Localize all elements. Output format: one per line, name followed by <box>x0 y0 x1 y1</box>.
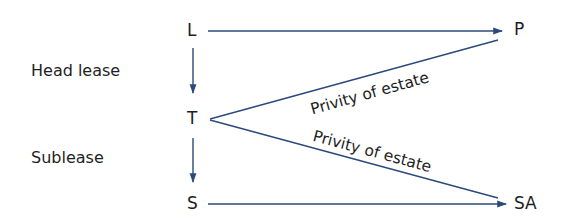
node-purchaser: P <box>514 21 524 38</box>
node-subtenant-assignee: SA <box>514 195 537 212</box>
sublease-label: Sublease <box>31 150 104 166</box>
node-subtenant: S <box>187 195 198 212</box>
node-landlord: L <box>187 22 196 39</box>
head-lease-label: Head lease <box>31 63 120 79</box>
privity-line-t-to-sa <box>210 120 498 198</box>
diagram-edges <box>0 0 569 221</box>
privity-line-t-to-p <box>210 40 498 119</box>
node-tenant: T <box>187 110 197 127</box>
privity-diagram: Head lease Sublease L T S P SA Privity o… <box>0 0 569 221</box>
